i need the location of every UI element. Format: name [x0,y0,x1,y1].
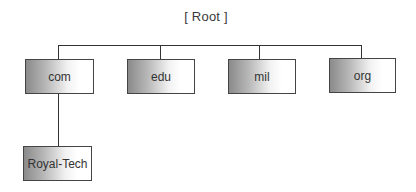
node-mil: mil [228,59,296,94]
connector-com-royal-tech [58,94,59,146]
connector-mil [259,45,260,59]
root-node-label: [ Root ] [178,9,234,24]
node-com-label: com [48,70,71,84]
connector-edu [160,45,161,59]
connector-org [361,45,362,59]
node-org-label: org [354,69,371,83]
horizontal-connector [58,45,362,46]
node-edu-label: edu [151,70,171,84]
node-org: org [329,58,396,93]
node-mil-label: mil [254,70,269,84]
node-royal-tech: Royal-Tech [23,146,92,181]
node-com: com [25,59,94,94]
connector-com [58,45,59,59]
node-royal-tech-label: Royal-Tech [27,157,87,171]
node-edu: edu [127,59,195,94]
